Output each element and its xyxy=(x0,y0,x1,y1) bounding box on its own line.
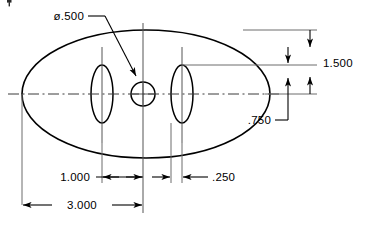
dimension-1500: 1.500 xyxy=(310,30,353,94)
dimension-1000-label: 1.000 xyxy=(60,171,90,183)
dimension-750-label: .750 xyxy=(248,114,271,126)
scan-artifact-mark xyxy=(7,0,12,6)
cad-drawing-svg: 1.500 .750 1.000 .250 xyxy=(0,0,373,230)
dimension-250-label: .250 xyxy=(212,171,235,183)
dimension-750: .750 xyxy=(248,47,288,126)
dimension-hole-diameter: ø.500 xyxy=(54,10,136,76)
dimension-1500-label: 1.500 xyxy=(323,57,353,69)
engineering-drawing-canvas: 1.500 .750 1.000 .250 xyxy=(0,0,373,230)
dimension-3000: 3.000 xyxy=(23,199,142,211)
dimension-hole-diameter-label: ø.500 xyxy=(54,10,84,22)
dimension-250: .250 xyxy=(152,171,235,183)
dimension-3000-label: 3.000 xyxy=(67,199,97,211)
